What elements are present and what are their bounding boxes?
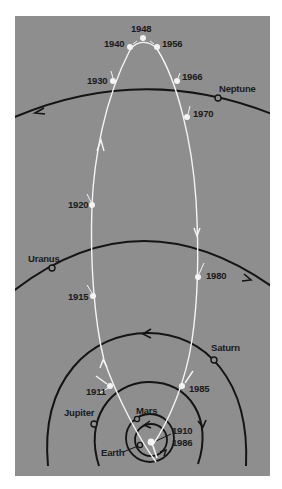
label-year-1920: 1920 — [68, 199, 88, 210]
neptune-planet — [215, 95, 221, 101]
label-jupiter: Jupiter — [64, 407, 95, 418]
label-year-1966: 1966 — [182, 71, 202, 82]
jupiter-planet — [91, 421, 97, 427]
mars-planet — [134, 416, 139, 421]
label-saturn: Saturn — [211, 342, 240, 353]
label-year-1956: 1956 — [162, 38, 182, 49]
halley-comet-orbit-diagram: 1948 1940 1956 1930 1966 1970 1920 1980 … — [0, 0, 282, 489]
comet-position-1948 — [140, 35, 146, 41]
label-neptune: Neptune — [219, 83, 256, 94]
label-year-1970: 1970 — [193, 108, 213, 119]
label-year-1986: 1986 — [172, 437, 192, 448]
label-mars: Mars — [136, 405, 157, 416]
earth-planet — [137, 442, 142, 447]
label-year-1915: 1915 — [68, 291, 89, 302]
label-uranus: Uranus — [28, 253, 60, 264]
label-year-1911: 1911 — [86, 386, 107, 397]
saturn-planet — [211, 357, 217, 363]
label-year-1948: 1948 — [131, 23, 151, 34]
uranus-planet — [49, 265, 55, 271]
figure-caption-cutoff — [18, 480, 268, 488]
label-year-1940: 1940 — [104, 38, 124, 49]
label-year-1930: 1930 — [87, 75, 107, 86]
label-earth: Earth — [101, 447, 125, 458]
label-year-1910: 1910 — [172, 425, 192, 436]
label-year-1980: 1980 — [206, 270, 226, 281]
label-year-1985: 1985 — [189, 383, 210, 394]
